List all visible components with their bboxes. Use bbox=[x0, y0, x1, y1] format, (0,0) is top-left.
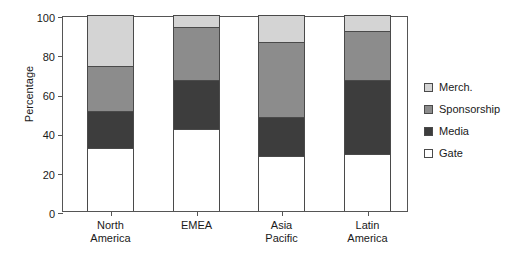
bar-segment-gate[interactable] bbox=[258, 156, 305, 211]
x-axis-tick-mark bbox=[197, 211, 198, 216]
legend-swatch-icon bbox=[424, 83, 433, 92]
legend-label: Sponsorship bbox=[439, 103, 500, 115]
x-axis-label-line: EMEA bbox=[152, 219, 242, 232]
y-axis-tick-mark bbox=[58, 135, 63, 136]
bar-latin-america[interactable] bbox=[344, 15, 391, 211]
y-axis-tick: 60 bbox=[43, 86, 63, 104]
x-axis-tick-mark bbox=[111, 211, 112, 216]
bar-segment-sponsorship[interactable] bbox=[344, 31, 391, 80]
y-axis-tick-label: 60 bbox=[43, 90, 58, 102]
x-axis-label-north-america: NorthAmerica bbox=[66, 219, 156, 245]
bar-segment-merch[interactable] bbox=[344, 15, 391, 31]
y-axis-tick-label: 40 bbox=[43, 129, 58, 141]
y-axis-tick-mark bbox=[58, 213, 63, 214]
y-axis-tick-label: 100 bbox=[37, 12, 58, 24]
y-axis-tick-mark bbox=[58, 174, 63, 175]
bar-segment-media[interactable] bbox=[173, 80, 220, 129]
x-axis-label-line: America bbox=[66, 232, 156, 245]
bar-segment-merch[interactable] bbox=[258, 15, 305, 42]
x-axis-tick-mark bbox=[282, 211, 283, 216]
bar-segment-sponsorship[interactable] bbox=[258, 42, 305, 116]
y-axis-tick: 20 bbox=[43, 165, 63, 183]
y-axis-tick-mark bbox=[58, 56, 63, 57]
bar-segment-gate[interactable] bbox=[87, 148, 134, 211]
bar-segment-media[interactable] bbox=[258, 117, 305, 156]
bar-segment-sponsorship[interactable] bbox=[173, 27, 220, 80]
x-axis-label-emea: EMEA bbox=[152, 219, 242, 232]
bar-asia-pacific[interactable] bbox=[258, 15, 305, 211]
y-axis-tick: 0 bbox=[49, 204, 63, 222]
y-axis-tick: 80 bbox=[43, 47, 63, 65]
x-axis-label-latin-america: LatinAmerica bbox=[323, 219, 413, 245]
y-axis-tick: 40 bbox=[43, 126, 63, 144]
bar-emea[interactable] bbox=[173, 15, 220, 211]
bar-segment-merch[interactable] bbox=[87, 15, 134, 66]
bar-segment-media[interactable] bbox=[87, 111, 134, 148]
legend-swatch-icon bbox=[424, 127, 433, 136]
bar-north-america[interactable] bbox=[87, 15, 134, 211]
x-axis-tick-mark bbox=[368, 211, 369, 216]
y-axis-tick-mark bbox=[58, 96, 63, 97]
x-axis-label-line: North bbox=[66, 219, 156, 232]
y-axis-tick-label: 0 bbox=[49, 208, 58, 220]
chart-legend: Merch.SponsorshipMediaGate bbox=[424, 76, 508, 164]
bar-segment-sponsorship[interactable] bbox=[87, 66, 134, 111]
y-axis-title: Percentage bbox=[23, 39, 35, 149]
legend-item-gate[interactable]: Gate bbox=[424, 142, 508, 164]
x-axis-label-line: Asia bbox=[237, 219, 327, 232]
legend-swatch-icon bbox=[424, 105, 433, 114]
bar-segment-media[interactable] bbox=[344, 80, 391, 154]
stacked-bar-chart-figure: Percentage 020406080100NorthAmericaEMEAA… bbox=[0, 0, 511, 260]
x-axis-label-line: Pacific bbox=[237, 232, 327, 245]
y-axis-tick: 100 bbox=[37, 8, 63, 26]
x-axis-label-asia-pacific: AsiaPacific bbox=[237, 219, 327, 245]
y-axis-tick-label: 20 bbox=[43, 169, 58, 181]
bar-segment-merch[interactable] bbox=[173, 15, 220, 27]
legend-item-media[interactable]: Media bbox=[424, 120, 508, 142]
legend-item-merch[interactable]: Merch. bbox=[424, 76, 508, 98]
bar-segment-gate[interactable] bbox=[344, 154, 391, 211]
x-axis-label-line: America bbox=[323, 232, 413, 245]
legend-label: Gate bbox=[439, 147, 463, 159]
x-axis-label-line: Latin bbox=[323, 219, 413, 232]
legend-label: Merch. bbox=[439, 81, 473, 93]
legend-item-sponsorship[interactable]: Sponsorship bbox=[424, 98, 508, 120]
legend-label: Media bbox=[439, 125, 469, 137]
legend-swatch-icon bbox=[424, 149, 433, 158]
y-axis-tick-label: 80 bbox=[43, 51, 58, 63]
plot-area: 020406080100NorthAmericaEMEAAsiaPacificL… bbox=[62, 16, 408, 212]
y-axis-tick-mark bbox=[58, 17, 63, 18]
bar-segment-gate[interactable] bbox=[173, 129, 220, 211]
